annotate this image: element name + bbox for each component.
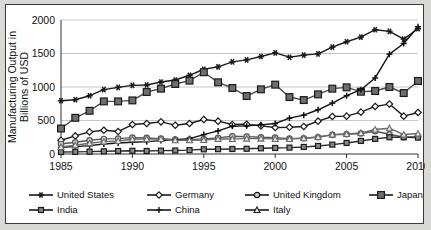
legend-symbol — [28, 204, 54, 216]
legend-item-china[interactable]: China — [146, 204, 200, 216]
series-marker-china — [301, 112, 307, 118]
series-marker-japan — [115, 98, 122, 105]
y-axis-title: Manufacturing Output inBillions of USD — [6, 31, 30, 143]
series-marker-united-states — [244, 57, 250, 62]
data-point-marker — [156, 207, 162, 213]
series-marker-germany — [172, 122, 178, 128]
chart-frame: 0500100015002000198519901995200020052010… — [5, 4, 424, 224]
series-marker-united-states — [315, 51, 321, 56]
y-tick-label: 1000 — [32, 81, 56, 93]
series-marker-germany — [329, 113, 335, 119]
legend-label: Italy — [273, 204, 290, 216]
series-marker-japan — [386, 84, 393, 91]
series-marker-germany — [215, 118, 221, 124]
series-marker-india — [101, 149, 106, 154]
legend-item-italy[interactable]: Italy — [244, 204, 290, 216]
x-tick-label: 1985 — [49, 160, 73, 172]
series-marker-italy — [401, 132, 407, 138]
x-tick-label: 1995 — [192, 160, 216, 172]
series-marker-china — [215, 128, 221, 134]
x-tick-label: 2010 — [406, 160, 425, 172]
series-marker-china — [315, 107, 321, 113]
series-marker-india — [230, 146, 235, 151]
series-marker-japan — [315, 91, 322, 98]
series-line-germany — [61, 104, 418, 140]
series-marker-united-states — [258, 54, 264, 59]
series-marker-germany — [115, 128, 121, 134]
legend-item-united-kingdom[interactable]: United Kingdom — [244, 189, 341, 201]
y-tick-label: 0 — [49, 148, 55, 160]
series-marker-japan — [229, 85, 236, 92]
legend-marker-asterisk-icon — [28, 189, 54, 201]
legend-marker-triangle-open-icon — [244, 204, 270, 216]
data-point-marker — [254, 207, 260, 213]
series-marker-china — [344, 93, 350, 99]
data-point-marker — [378, 192, 385, 199]
series-marker-japan — [286, 94, 293, 101]
series-marker-japan — [158, 85, 165, 92]
series-marker-india — [216, 147, 221, 152]
series-marker-japan — [129, 97, 136, 104]
series-line-united-kingdom — [61, 131, 418, 144]
series-marker-japan — [72, 114, 79, 121]
series-marker-united-states — [115, 85, 121, 90]
series-marker-india — [116, 148, 121, 153]
legend-label: India — [57, 204, 78, 216]
series-marker-united-states — [329, 44, 335, 49]
legend-label: Japan — [397, 189, 423, 201]
series-marker-united-states — [86, 93, 92, 98]
series-marker-india — [130, 148, 135, 153]
x-tick-label: 2005 — [335, 160, 359, 172]
legend-marker-diamond-open-icon — [146, 189, 172, 201]
legend-item-india[interactable]: India — [28, 204, 78, 216]
series-marker-germany — [343, 113, 349, 119]
legend-item-japan[interactable]: Japan — [368, 189, 423, 201]
legend-label: United States — [57, 189, 114, 201]
data-point-marker — [38, 192, 44, 197]
series-marker-china — [329, 100, 335, 106]
series-marker-japan — [58, 125, 65, 132]
data-point-marker — [254, 192, 259, 197]
series-marker-india — [387, 135, 392, 140]
series-marker-japan — [258, 86, 265, 93]
series-marker-germany — [415, 109, 421, 115]
series-marker-japan — [343, 84, 350, 91]
series-marker-india — [173, 148, 178, 153]
series-marker-india — [187, 148, 192, 153]
series-marker-germany — [129, 121, 135, 127]
chart-plot-region: 0500100015002000198519901995200020052010… — [6, 5, 425, 187]
series-marker-japan — [415, 78, 422, 85]
series-marker-india — [201, 147, 206, 152]
legend-symbol — [146, 204, 172, 216]
series-marker-germany — [286, 124, 292, 130]
series-marker-italy — [358, 130, 364, 136]
series-marker-germany — [158, 119, 164, 125]
series-marker-india — [158, 148, 163, 153]
legend-item-germany[interactable]: Germany — [146, 189, 214, 201]
series-marker-italy — [415, 131, 421, 137]
series-marker-japan — [86, 107, 93, 114]
series-marker-japan — [372, 88, 379, 95]
series-marker-japan — [243, 93, 250, 100]
series-marker-united-states — [72, 97, 78, 102]
series-marker-germany — [315, 118, 321, 124]
series-marker-india — [287, 145, 292, 150]
series-marker-united-states — [272, 50, 278, 55]
series-marker-japan — [186, 77, 193, 84]
series-marker-japan — [300, 97, 307, 104]
series-marker-japan — [272, 81, 279, 88]
series-marker-italy — [386, 125, 392, 131]
legend-row: United StatesGermanyUnited KingdomJapan — [28, 189, 423, 204]
y-axis-title-line: Manufacturing Output in — [6, 31, 18, 143]
series-line-india — [61, 137, 418, 152]
series-marker-italy — [372, 127, 378, 133]
series-marker-japan — [143, 89, 150, 96]
series-marker-germany — [72, 133, 78, 139]
series-marker-united-states — [344, 39, 350, 44]
series-marker-united-states — [215, 64, 221, 69]
data-point-marker — [156, 192, 162, 198]
series-marker-india — [258, 146, 263, 151]
legend-marker-plus-icon — [146, 204, 172, 216]
legend-item-united-states[interactable]: United States — [28, 189, 114, 201]
series-marker-india — [344, 140, 349, 145]
